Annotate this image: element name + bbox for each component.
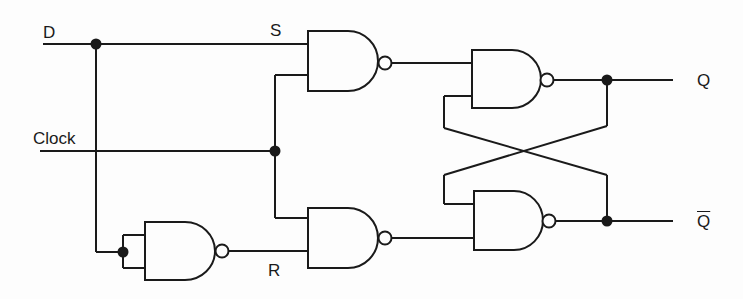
latch-bottom-nand-gate bbox=[444, 175, 673, 250]
d-junction-dot bbox=[92, 40, 101, 49]
r-signal-label: R bbox=[268, 262, 280, 279]
d-flip-flop-diagram: D Clock S R Q Q bbox=[0, 0, 743, 299]
inverter-junction-dot bbox=[119, 248, 128, 257]
clock-wire bbox=[40, 75, 308, 218]
s-signal-label: S bbox=[270, 22, 281, 39]
clock-input-label: Clock bbox=[33, 130, 76, 147]
d-input-wire bbox=[43, 44, 308, 252]
q-bar-output-label: Q bbox=[697, 213, 710, 230]
cross-coupling-wires bbox=[444, 80, 607, 221]
r-nand-gate bbox=[308, 208, 474, 268]
latch-top-nand-gate bbox=[444, 50, 673, 128]
clock-junction-dot bbox=[271, 147, 280, 156]
q-output-label: Q bbox=[697, 72, 710, 89]
d-input-label: D bbox=[43, 24, 55, 41]
s-nand-gate bbox=[308, 31, 472, 91]
circuit-schematic bbox=[0, 0, 743, 299]
